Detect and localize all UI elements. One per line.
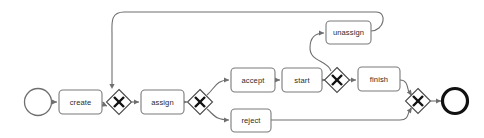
ah-reject (224, 117, 229, 122)
task-finish[interactable]: finish (358, 67, 400, 91)
task-start[interactable]: start (282, 68, 322, 92)
task-create-label: create (70, 98, 92, 107)
task-unassign[interactable]: unassign (326, 21, 371, 44)
task-start-label: start (294, 76, 310, 85)
ah-accept (224, 77, 229, 82)
gateway-3[interactable] (325, 68, 350, 93)
task-finish-label: finish (370, 75, 388, 84)
task-accept-label: accept (242, 76, 266, 85)
end-event[interactable] (443, 89, 468, 114)
gateway-1[interactable] (107, 90, 132, 115)
ah-start (275, 77, 280, 82)
task-assign[interactable]: assign (141, 90, 184, 114)
task-assign-label: assign (151, 98, 174, 107)
task-reject-label: reject (241, 116, 261, 125)
task-create[interactable]: create (59, 90, 102, 114)
ah-unassign (319, 30, 324, 35)
ah-end (436, 98, 441, 103)
flow-reject-gateway4 (271, 108, 411, 120)
task-accept[interactable]: accept (231, 68, 275, 92)
ah-create (52, 99, 57, 104)
start-event[interactable] (25, 89, 52, 116)
ah-finish (351, 77, 356, 82)
task-reject[interactable]: reject (231, 109, 271, 132)
ah-gateway1b (109, 84, 114, 89)
task-unassign-label: unassign (333, 28, 364, 37)
flow-gateway2-accept (207, 80, 229, 95)
ah-assign (134, 99, 139, 104)
bpmn-svg: create assign accept start unassign fini… (0, 0, 484, 138)
bpmn-diagram-canvas: create assign accept start unassign fini… (0, 0, 484, 138)
